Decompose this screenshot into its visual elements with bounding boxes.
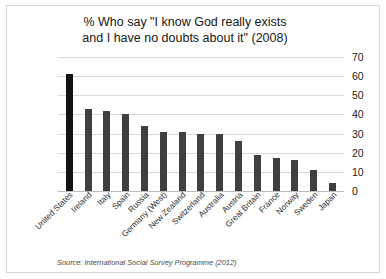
bar-slot xyxy=(79,57,98,191)
plot-area xyxy=(58,57,344,191)
bar-spain xyxy=(122,114,129,191)
y-axis-tick-50: 50 xyxy=(352,90,364,101)
bar-italy xyxy=(103,111,110,191)
bar-slot xyxy=(60,57,79,191)
bar-great-britain xyxy=(254,155,261,191)
bar-slot xyxy=(98,57,117,191)
bar-austria xyxy=(235,141,242,191)
bar-australia xyxy=(216,134,223,191)
y-axis-tick-60: 60 xyxy=(352,71,364,82)
bar-united-states xyxy=(66,74,73,191)
bar-slot xyxy=(210,57,229,191)
x-axis-label-united-states: United States xyxy=(35,191,76,232)
chart-title-line-2: and I have no doubts about it" (2008) xyxy=(30,30,340,46)
bar-slot xyxy=(154,57,173,191)
chart-title-line-1: % Who say "I know God really exists xyxy=(30,14,340,30)
x-axis: United StatesIrelandItalySpainRussiaGerm… xyxy=(58,191,344,249)
bar-slot xyxy=(116,57,135,191)
y-axis-tick-10: 10 xyxy=(352,167,364,178)
bar-sweden xyxy=(310,170,317,191)
bar-russia xyxy=(141,126,148,191)
bar-slot xyxy=(229,57,248,191)
bar-slot xyxy=(173,57,192,191)
bar-slot xyxy=(192,57,211,191)
y-axis: 010203040506070 xyxy=(348,57,378,191)
bar-germany-west xyxy=(160,132,167,191)
x-axis-label-ireland: Ireland xyxy=(70,191,94,215)
source-note: Source: International Social Survey Prog… xyxy=(57,258,237,267)
bar-slot xyxy=(323,57,342,191)
bar-france xyxy=(273,158,280,191)
bar-slot xyxy=(267,57,286,191)
bar-new-zealand xyxy=(179,132,186,191)
bar-slot xyxy=(304,57,323,191)
bar-ireland xyxy=(85,109,92,191)
y-axis-tick-0: 0 xyxy=(352,186,358,197)
bar-slot xyxy=(135,57,154,191)
x-axis-label-japan: Japan xyxy=(317,191,339,213)
y-axis-tick-40: 40 xyxy=(352,109,364,120)
chart-container: % Who say "I know God really exists and … xyxy=(0,0,386,279)
y-axis-tick-20: 20 xyxy=(352,147,364,158)
bar-series xyxy=(58,57,344,191)
y-axis-tick-30: 30 xyxy=(352,128,364,139)
chart-title: % Who say "I know God really exists and … xyxy=(30,14,340,46)
y-axis-tick-70: 70 xyxy=(352,52,364,63)
bar-norway xyxy=(291,160,298,191)
bar-slot xyxy=(286,57,305,191)
bar-switzerland xyxy=(197,134,204,191)
bar-slot xyxy=(248,57,267,191)
